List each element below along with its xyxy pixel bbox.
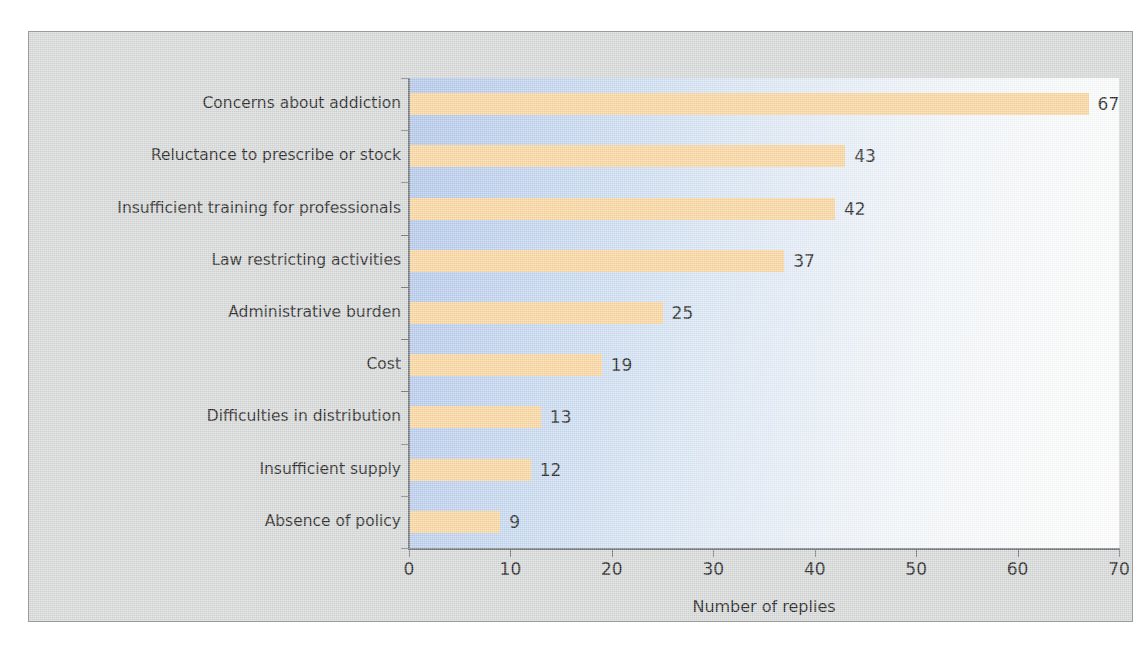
x-axis-tick-label: 20 <box>589 559 635 579</box>
category-label: Concerns about addiction <box>41 94 401 112</box>
bar-value-label: 42 <box>844 198 866 220</box>
x-axis-tick <box>1119 550 1120 557</box>
figure-root: Concerns about addictionReluctance to pr… <box>0 0 1148 651</box>
category-label: Cost <box>41 355 401 373</box>
bar <box>409 250 784 272</box>
y-axis-tick <box>401 548 409 549</box>
x-axis-title: Number of replies <box>409 597 1119 616</box>
bar-value-label: 13 <box>550 406 572 428</box>
category-axis-labels: Concerns about addictionReluctance to pr… <box>39 78 401 548</box>
y-axis-tick <box>401 235 409 236</box>
bar <box>409 354 602 376</box>
x-axis-tick <box>713 550 714 557</box>
bar-value-label: 9 <box>509 511 520 533</box>
x-axis-tick <box>510 550 511 557</box>
category-label: Reluctance to prescribe or stock <box>41 146 401 164</box>
bar <box>409 145 845 167</box>
category-label: Administrative burden <box>41 303 401 321</box>
y-axis-tick <box>401 182 409 183</box>
x-axis-tick-label: 60 <box>995 559 1041 579</box>
bar-value-label: 19 <box>611 354 633 376</box>
category-label: Law restricting activities <box>41 251 401 269</box>
category-label: Insufficient training for professionals <box>41 199 401 217</box>
x-axis-tick <box>409 550 410 557</box>
bar <box>409 511 500 533</box>
y-axis-tick <box>401 339 409 340</box>
y-axis-tick <box>401 130 409 131</box>
x-axis-tick-label: 50 <box>893 559 939 579</box>
y-axis-tick <box>401 78 409 79</box>
bar-value-label: 12 <box>540 459 562 481</box>
x-axis-tick-label: 70 <box>1096 559 1142 579</box>
bar <box>409 302 663 324</box>
y-axis-tick <box>401 287 409 288</box>
x-axis-tick <box>815 550 816 557</box>
x-axis-tick <box>612 550 613 557</box>
category-label: Insufficient supply <box>41 460 401 478</box>
x-axis-tick <box>916 550 917 557</box>
category-label: Absence of policy <box>41 512 401 530</box>
category-label: Difficulties in distribution <box>41 407 401 425</box>
bar <box>409 198 835 220</box>
bar <box>409 93 1089 115</box>
x-axis-tick <box>1018 550 1019 557</box>
y-axis-tick <box>401 444 409 445</box>
bar-value-label: 25 <box>672 302 694 324</box>
bar <box>409 459 531 481</box>
x-axis-line <box>408 548 1120 550</box>
x-axis-tick-label: 0 <box>386 559 432 579</box>
bar-value-label: 43 <box>854 145 876 167</box>
x-axis-tick-label: 40 <box>792 559 838 579</box>
bars-layer: 67434237251913129 <box>409 78 1119 548</box>
bar <box>409 406 541 428</box>
chart-panel: Concerns about addictionReluctance to pr… <box>28 31 1133 622</box>
x-axis-tick-label: 30 <box>690 559 736 579</box>
y-axis-line <box>408 78 410 549</box>
plot-area: 67434237251913129 <box>409 78 1119 548</box>
y-axis-tick <box>401 391 409 392</box>
x-axis-tick-label: 10 <box>487 559 533 579</box>
bar-value-label: 37 <box>793 250 815 272</box>
y-axis-tick <box>401 496 409 497</box>
bar-value-label: 67 <box>1098 93 1120 115</box>
